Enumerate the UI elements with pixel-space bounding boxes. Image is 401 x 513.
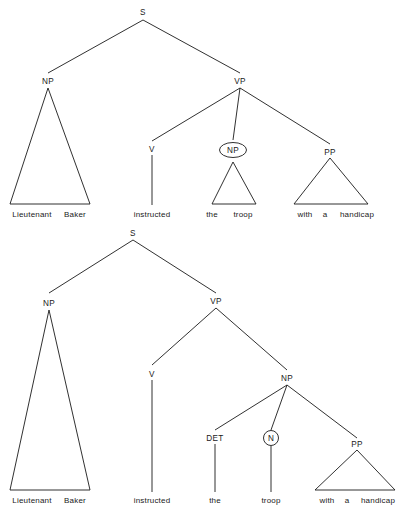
node-v-top: V: [149, 145, 155, 154]
edge-s-to-np-top: [48, 20, 143, 73]
node-n-bottom: N: [268, 434, 274, 443]
leaf-pp-word3-top: handicap: [340, 210, 374, 219]
triangle-pp-top: [294, 158, 368, 204]
leaf-pp-word2-bottom: a: [345, 496, 350, 505]
node-np-subject-bottom: NP: [43, 299, 55, 308]
triangle-np-object-top: [212, 162, 256, 204]
tree-top-group: S NP VP V NP PP Lieutenant Baker instruc…: [10, 8, 374, 219]
leaf-subject-word1-bottom: Lieutenant: [12, 496, 52, 505]
syntax-tree-figure: S NP VP V NP PP Lieutenant Baker instruc…: [0, 0, 401, 513]
node-s-bottom: S: [130, 229, 136, 238]
edge-np-to-det-bottom: [215, 385, 287, 430]
leaf-pp-word2-top: a: [323, 210, 328, 219]
edge-np-to-pp-bottom: [287, 385, 357, 438]
edge-np-to-n-bottom: [271, 385, 287, 430]
tree-diagram-canvas: S NP VP V NP PP Lieutenant Baker instruc…: [0, 0, 401, 513]
node-v-bottom: V: [149, 370, 155, 379]
leaf-subject-word2-bottom: Baker: [64, 496, 86, 505]
tree-bottom-group: S NP VP V NP DET N PP Lieutenant Baker i…: [10, 229, 395, 505]
edge-s-to-vp-bottom: [133, 240, 216, 293]
node-det-bottom: DET: [206, 434, 223, 443]
triangle-np-subject-bottom: [10, 310, 90, 490]
leaf-pp-word1-top: with: [296, 210, 312, 219]
leaf-pp-word1-bottom: with: [318, 496, 334, 505]
leaf-subject-word2-top: Baker: [64, 210, 86, 219]
leaf-n-word-bottom: troop: [261, 496, 281, 505]
node-np-subject-top: NP: [42, 77, 54, 86]
edge-s-to-np-bottom: [49, 240, 133, 293]
node-s-top: S: [140, 8, 146, 17]
node-np-object-bottom: NP: [281, 374, 293, 383]
node-np-object-top: NP: [227, 146, 239, 155]
leaf-subject-word1-top: Lieutenant: [12, 210, 52, 219]
triangle-pp-bottom: [315, 450, 395, 490]
node-vp-bottom: VP: [210, 297, 222, 306]
triangle-np-subject-top: [10, 88, 90, 204]
node-pp-top: PP: [324, 148, 336, 157]
edge-s-to-vp-top: [143, 20, 240, 73]
node-vp-top: VP: [234, 77, 246, 86]
leaf-object-word1-top: the: [206, 210, 218, 219]
edge-vp-to-pp-top: [240, 88, 330, 144]
edge-vp-to-v-bottom: [152, 308, 216, 365]
leaf-verb-bottom: instructed: [134, 496, 171, 505]
leaf-det-word-bottom: the: [209, 496, 221, 505]
leaf-pp-word3-bottom: handicap: [361, 496, 395, 505]
leaf-verb-top: instructed: [134, 210, 171, 219]
edge-vp-to-v-top: [152, 88, 240, 141]
leaf-object-word2-top: troop: [233, 210, 253, 219]
node-pp-bottom: PP: [351, 440, 363, 449]
edge-vp-to-np-bottom: [216, 308, 287, 370]
edge-vp-to-np-top: [233, 88, 240, 140]
